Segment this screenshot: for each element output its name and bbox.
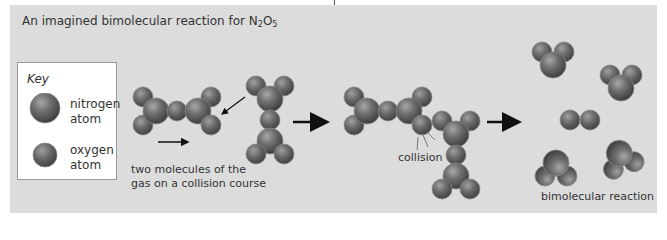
product-no2-4 [595,134,647,182]
key-label-oxygen: oxygen atom [70,143,114,173]
nitrogen-atom-icon [30,93,60,123]
key-heading: Key [27,72,49,86]
key-icons [26,93,66,173]
motion-arrow-diagonal [222,97,245,114]
caption-stage1: two molecules of the gas on a collision … [131,163,266,191]
oxygen-atom-icon [33,143,57,167]
product-no2-3 [535,150,577,186]
product-o2 [560,110,600,130]
stage2-molecule-horizontal [344,87,432,135]
key-label-nitrogen: nitrogen atom [70,97,120,127]
caption-stage2: collision [398,151,442,165]
stage1-molecule-horizontal [133,87,221,135]
product-no2-2 [600,65,642,101]
caption-stage3: bimolecular reaction [541,190,654,204]
legend-key: Key nitrogen atom oxygen atom [17,62,117,180]
stage1-molecule-vertical [246,76,294,164]
product-no2-1 [532,42,574,78]
